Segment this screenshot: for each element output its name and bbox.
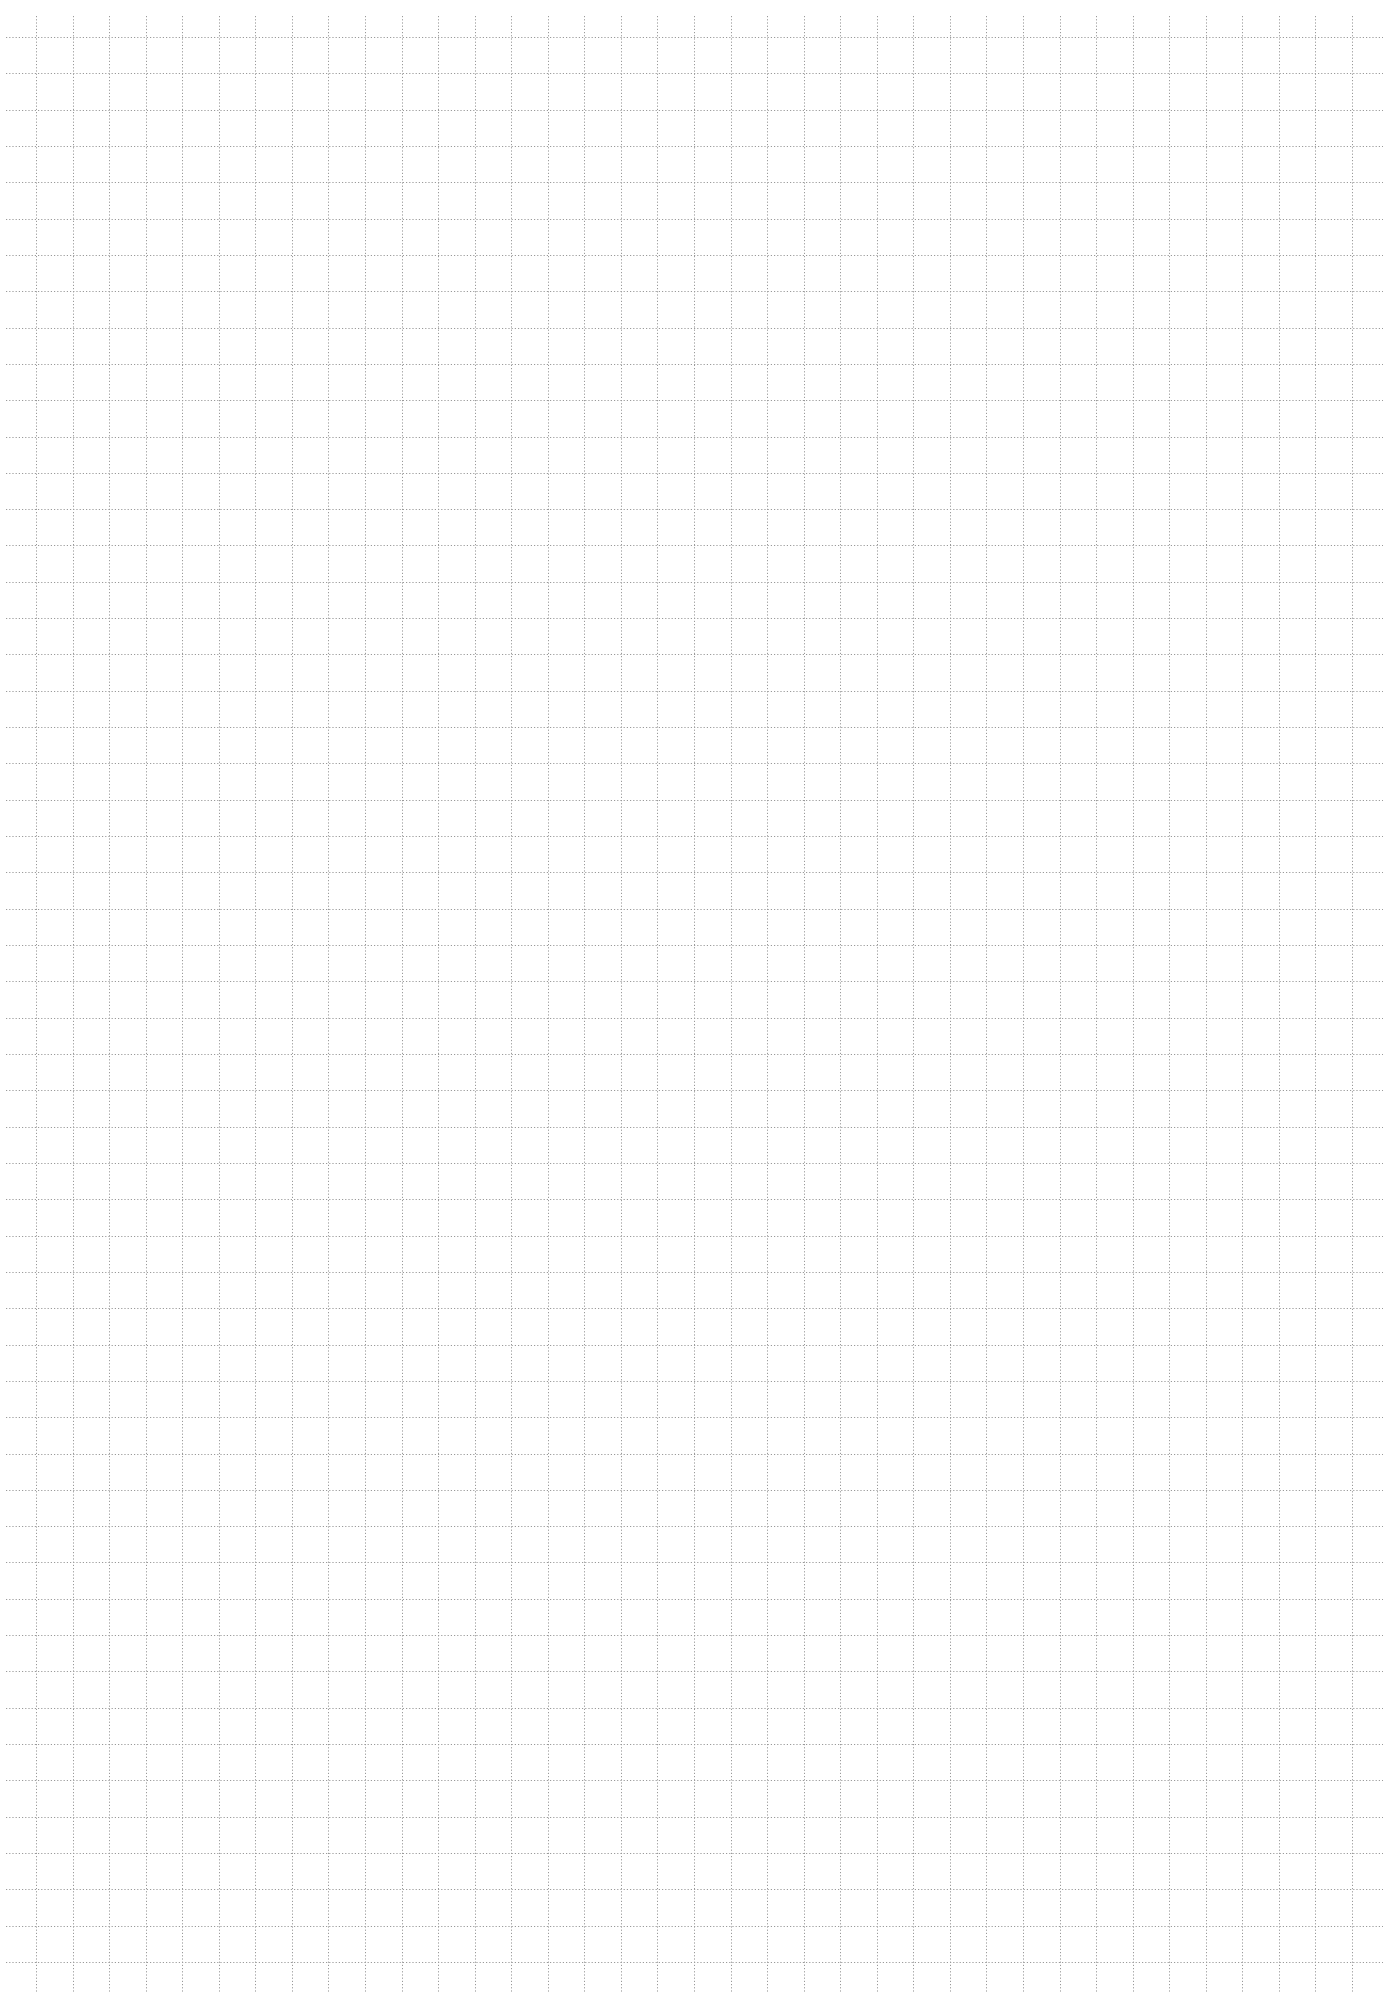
grid-lines	[0, 0, 1385, 2000]
